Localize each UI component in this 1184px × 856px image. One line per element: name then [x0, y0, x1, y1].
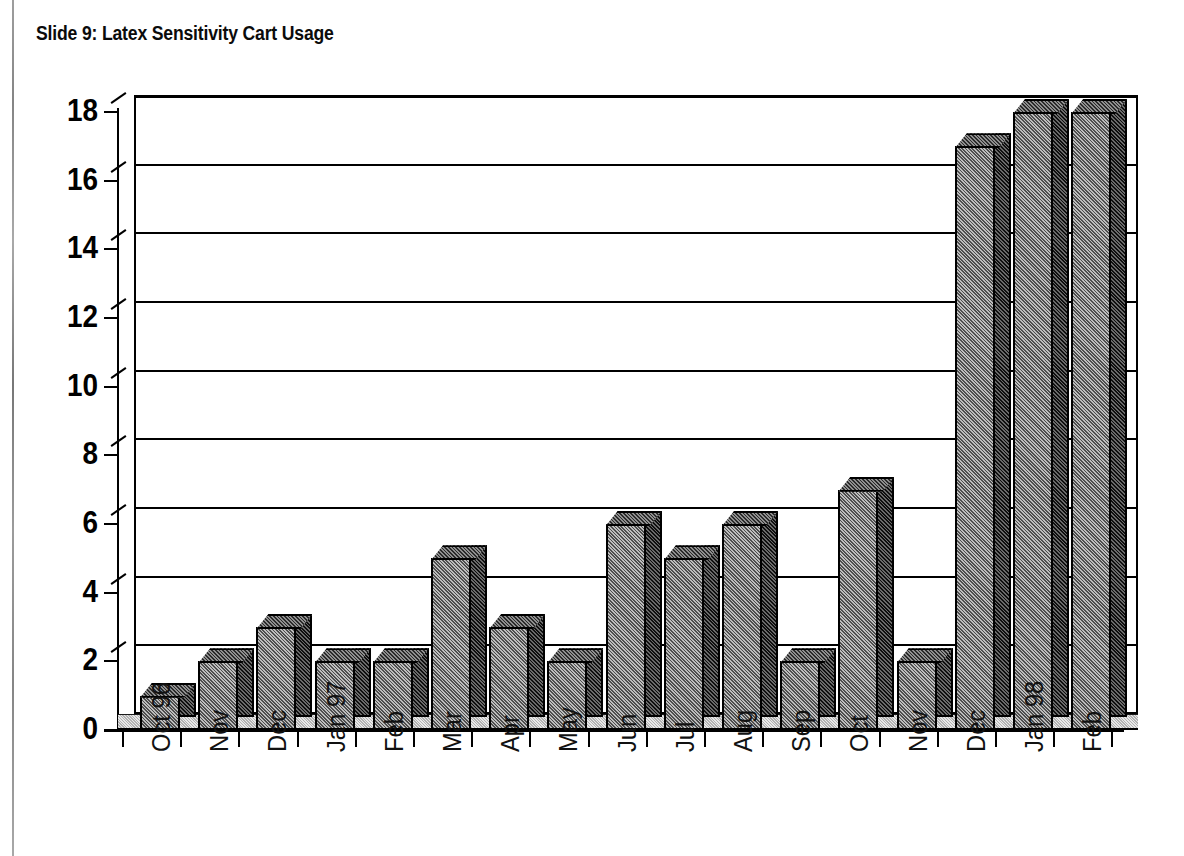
x-tick-0 — [122, 731, 124, 747]
scanned-slide-page: Slide 9: Latex Sensitivity Cart Usage 02… — [0, 0, 1184, 856]
x-tick-12 — [820, 731, 822, 747]
bar-side-face — [646, 511, 662, 717]
bar-front-face — [1013, 112, 1053, 730]
bar-side-face — [762, 511, 778, 717]
y-axis-label-12: 12 — [40, 301, 98, 332]
x-axis-label-nov: Nov — [906, 710, 931, 752]
y-tick-connector-8 — [111, 435, 133, 456]
y-axis-label-0: 0 — [40, 713, 98, 744]
bar-side-face — [529, 614, 545, 717]
gridline-18 — [134, 95, 1138, 97]
x-axis-label-jan-97: Jan 97 — [324, 681, 349, 752]
x-tick-3 — [297, 731, 299, 747]
x-axis-label-aug: Aug — [731, 710, 756, 752]
x-axis-label-jul: Jul — [673, 722, 698, 752]
x-axis-label-may: May — [556, 707, 581, 752]
bar-jan-98 — [1013, 99, 1073, 730]
x-axis-label-jan-98: Jan 98 — [1022, 681, 1047, 752]
y-tick-connector-16 — [111, 161, 133, 182]
bar-side-face — [1111, 99, 1127, 717]
bar-front-face — [1071, 112, 1111, 730]
bar-side-face — [878, 477, 894, 717]
bar-jul — [664, 545, 724, 730]
bar-front-face — [664, 558, 704, 730]
y-tick-connector-2 — [111, 641, 133, 662]
bar-side-face — [1053, 99, 1069, 717]
y-axis-label-16: 16 — [40, 164, 98, 195]
x-axis-label-oct-96: Oct 96 — [149, 682, 174, 752]
y-tick-connector-14 — [111, 229, 133, 250]
x-axis-label-feb: Feb — [382, 711, 407, 752]
x-axis-label-apr: Apr — [498, 715, 523, 752]
x-tick-8 — [588, 731, 590, 747]
bar-apr — [489, 614, 549, 730]
bar-front-face — [431, 558, 471, 730]
x-tick-7 — [529, 731, 531, 747]
x-tick-10 — [704, 731, 706, 747]
y-tick-connector-18 — [111, 92, 133, 113]
y-axis-label-2: 2 — [40, 644, 98, 675]
bar-front-face — [606, 524, 646, 730]
bar-front-face — [955, 146, 995, 730]
x-tick-4 — [355, 731, 357, 747]
bar-mar — [431, 545, 491, 730]
y-axis-label-14: 14 — [40, 232, 98, 263]
x-tick-15 — [995, 731, 997, 747]
y-axis-label-6: 6 — [40, 507, 98, 538]
y-tick-14 — [104, 248, 118, 250]
x-tick-16 — [1053, 731, 1055, 747]
y-tick-connector-12 — [111, 298, 133, 319]
x-tick-11 — [762, 731, 764, 747]
x-axis-label-mar: Mar — [440, 711, 465, 752]
bar-front-face — [838, 490, 878, 730]
bar-oct — [838, 477, 898, 730]
x-tick-13 — [879, 731, 881, 747]
x-axis-label-nov: Nov — [207, 710, 232, 752]
bar-chart: 024681012141618 Oct 96NovDecJan 97FebMar… — [0, 0, 1184, 856]
y-axis-label-18: 18 — [40, 95, 98, 126]
y-axis-label-8: 8 — [40, 438, 98, 469]
x-axis-label-jun: Jun — [615, 714, 640, 752]
x-tick-9 — [646, 731, 648, 747]
bar-dec — [955, 133, 1015, 730]
bar-feb — [1071, 99, 1131, 730]
x-axis-label-feb: Feb — [1080, 711, 1105, 752]
y-axis-label-4: 4 — [40, 576, 98, 607]
bar-side-face — [471, 545, 487, 717]
bar-front-face — [722, 524, 762, 730]
y-tick-connector-4 — [111, 573, 133, 594]
x-axis-label-sep: Sep — [789, 710, 814, 752]
y-tick-8 — [104, 454, 118, 456]
x-tick-2 — [238, 731, 240, 747]
bar-jun — [606, 511, 666, 730]
bar-aug — [722, 511, 782, 730]
bar-side-face — [296, 614, 312, 717]
x-tick-1 — [180, 731, 182, 747]
x-tick-6 — [471, 731, 473, 747]
x-axis-label-dec: Dec — [964, 710, 989, 752]
x-tick-5 — [413, 731, 415, 747]
y-axis-line — [117, 108, 119, 730]
y-tick-connector-6 — [111, 504, 133, 525]
y-tick-2 — [104, 660, 118, 662]
y-axis-label-10: 10 — [40, 370, 98, 401]
x-axis-label-oct: Oct — [847, 715, 872, 752]
x-tick-17 — [1111, 731, 1113, 747]
y-tick-connector-10 — [111, 367, 133, 388]
bar-side-face — [995, 133, 1011, 717]
x-axis-label-dec: Dec — [265, 710, 290, 752]
x-tick-14 — [937, 731, 939, 747]
bar-side-face — [704, 545, 720, 717]
